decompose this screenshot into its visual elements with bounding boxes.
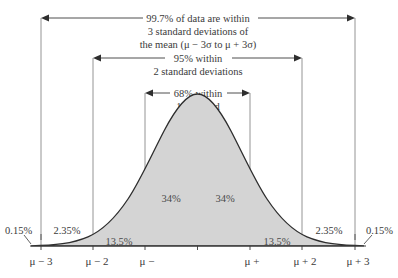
axis-label-plus-3sd: μ + 3 <box>346 255 370 267</box>
axis-label-minus-3sd: μ − 3 <box>29 255 53 267</box>
leader-right-tail-outer <box>364 235 372 244</box>
axis-label-plus-2sd: μ + 2 <box>293 255 316 267</box>
bracket-95-label-line2: 2 standard deviations <box>153 66 242 77</box>
bracket-99-7-label-line3: the mean (μ − 3σ to μ + 3σ) <box>140 39 257 51</box>
bracket-68-right-arrow-icon <box>242 90 250 97</box>
label-left-tail-outer: 0.15% <box>5 225 32 236</box>
normal-distribution-figure: 99.7% of data are within 3 standard devi… <box>0 0 398 278</box>
bracket-95-label-line1: 95% within <box>174 53 223 64</box>
leader-left-tail-outer <box>24 235 31 244</box>
bracket-99-7-left-arrow-icon <box>41 15 49 22</box>
bracket-99-7-label-line2: 3 standard deviations of <box>148 26 249 37</box>
bracket-99-7: 99.7% of data are within 3 standard devi… <box>41 13 355 51</box>
bracket-99-7-right-arrow-icon <box>347 15 355 22</box>
bracket-68-left-arrow-icon <box>145 90 153 97</box>
bracket-95-right-arrow-icon <box>294 55 302 62</box>
bracket-95-left-arrow-icon <box>93 55 101 62</box>
label-left-inner: 13.5% <box>105 236 132 247</box>
label-right-inner: 13.5% <box>263 236 290 247</box>
axis-label-minus-1sd: μ − <box>140 255 155 267</box>
label-right-tail-mid: 2.35% <box>315 225 342 236</box>
label-left-center: 34% <box>161 193 181 204</box>
label-right-center: 34% <box>215 193 235 204</box>
axis-label-plus-1sd: μ + <box>245 255 260 267</box>
axis-label-minus-2sd: μ − 2 <box>85 255 108 267</box>
label-left-tail-mid: 2.35% <box>53 225 80 236</box>
bell-curve <box>31 94 364 246</box>
bracket-99-7-label-line1: 99.7% of data are within <box>146 13 250 24</box>
label-right-tail-outer: 0.15% <box>366 225 393 236</box>
bracket-95: 95% within 2 standard deviations <box>93 53 302 77</box>
empirical-rule-chart: 99.7% of data are within 3 standard devi… <box>0 0 398 278</box>
